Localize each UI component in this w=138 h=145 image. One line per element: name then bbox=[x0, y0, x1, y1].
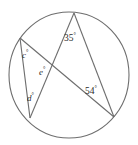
degree-symbol-e: ° bbox=[43, 66, 45, 72]
angle-35-value: 35 bbox=[64, 33, 74, 43]
degree-symbol-c: ° bbox=[26, 49, 28, 55]
chord-top-to-right bbox=[74, 13, 114, 117]
angle-label-c: c° bbox=[22, 49, 28, 60]
degree-symbol-35: ° bbox=[74, 32, 76, 38]
angle-label-e: e° bbox=[39, 66, 45, 77]
circle-outline bbox=[9, 12, 129, 138]
chord-upperleft-to-right bbox=[20, 38, 114, 117]
degree-symbol-d: ° bbox=[32, 92, 34, 98]
angle-54-value: 54 bbox=[85, 86, 95, 96]
geometry-figure: 35° c° e° d° 54° bbox=[0, 0, 138, 145]
circle-diagram-canvas bbox=[0, 0, 138, 145]
angle-label-d: d° bbox=[27, 92, 34, 103]
angle-label-35: 35° bbox=[64, 32, 76, 44]
degree-symbol-54: ° bbox=[95, 85, 97, 91]
angle-label-54: 54° bbox=[85, 85, 97, 97]
